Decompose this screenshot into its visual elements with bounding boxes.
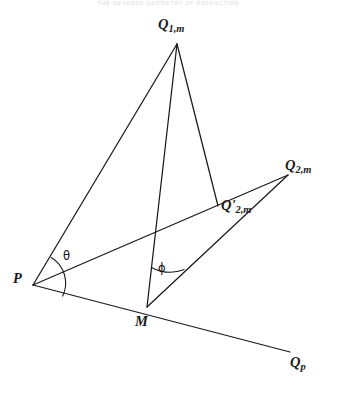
segment-P-Qp	[33, 285, 290, 352]
point-label-M-base: M	[135, 313, 148, 329]
point-label-Q1m-sub: 1,m	[168, 23, 184, 34]
point-label-Q2m-prime: Q'2,m	[221, 197, 251, 214]
segment-Q1m-P	[33, 44, 177, 285]
point-label-Q2m-prime-base: Q'	[221, 197, 236, 213]
segment-M-Q2m	[147, 175, 288, 307]
point-label-Q2m-prime-sub: 2,m	[236, 204, 252, 215]
angle-label-phi: ϕ	[158, 261, 166, 275]
point-label-P: P	[13, 270, 22, 287]
segment-Q1m-Q2mp	[177, 44, 218, 206]
point-label-P-base: P	[13, 270, 22, 286]
point-label-Q2m-base: Q	[285, 157, 295, 173]
point-label-Q2m: Q2,m	[285, 157, 311, 174]
point-label-Q1m-base: Q	[158, 16, 168, 32]
point-label-Qp: Qp	[290, 354, 306, 371]
point-label-M: M	[135, 313, 148, 330]
figure-page: THE REVERSE GEOMETRY OF REFRACTION Q1,m …	[0, 0, 337, 397]
angle-arc-phi	[152, 267, 185, 272]
point-label-Q2m-sub: 2,m	[295, 164, 311, 175]
point-label-Qp-sub: p	[300, 361, 305, 372]
angle-label-theta: θ	[63, 249, 70, 263]
point-label-Q1m: Q1,m	[158, 16, 184, 33]
geometry-diagram	[0, 0, 337, 397]
point-label-Qp-base: Q	[290, 354, 300, 370]
